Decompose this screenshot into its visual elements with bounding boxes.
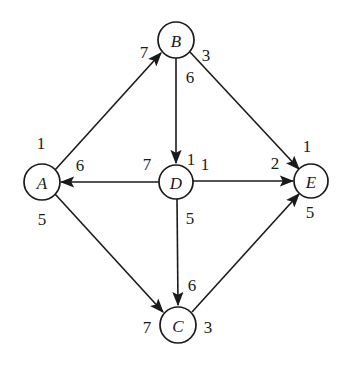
- node-label-c: C: [172, 317, 184, 336]
- node-e[interactable]: E: [294, 164, 328, 198]
- edge-c-to-e: [192, 194, 299, 312]
- node-a[interactable]: A: [24, 164, 60, 200]
- node-label-a: A: [36, 174, 48, 193]
- edge-a-to-b: [55, 53, 161, 170]
- weight-label-d-e-tail: 1: [201, 155, 210, 174]
- weight-label-b-e-head: 1: [303, 137, 312, 156]
- edge-a-to-c: [55, 194, 163, 312]
- node-label-e: E: [305, 173, 317, 192]
- node-label-b: B: [171, 32, 182, 51]
- weight-label-d-c-tail: 5: [186, 209, 195, 228]
- weight-label-b-d-head: 1: [187, 150, 196, 169]
- node-d[interactable]: D: [159, 165, 193, 199]
- weight-label-a-b-head: 7: [140, 43, 149, 62]
- graph-diagram: ABCDE 1731617612565735: [0, 0, 342, 365]
- weight-label-d-c-head: 6: [188, 276, 197, 295]
- weight-label-c-e-head: 5: [306, 203, 315, 222]
- node-c[interactable]: C: [160, 307, 196, 343]
- weight-label-a-c-tail: 5: [38, 210, 47, 229]
- weight-label-a-b-tail: 1: [37, 134, 46, 153]
- graph-canvas: ABCDE 1731617612565735: [0, 0, 342, 365]
- edge-b-to-e: [190, 52, 299, 169]
- weight-label-a-c-head: 7: [143, 318, 152, 337]
- weight-label-d-a-tail: 7: [143, 155, 152, 174]
- node-label-d: D: [169, 174, 183, 193]
- node-b[interactable]: B: [158, 22, 194, 58]
- weight-label-b-d-tail: 6: [186, 68, 195, 87]
- weight-label-c-e-tail: 3: [204, 318, 213, 337]
- weight-label-b-e-tail: 3: [202, 46, 211, 65]
- weight-label-d-e-head: 2: [271, 154, 280, 173]
- edge-d-to-c: [177, 199, 178, 305]
- weight-label-d-a-head: 6: [76, 156, 85, 175]
